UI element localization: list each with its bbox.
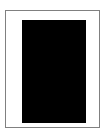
document-thumbnail	[0, 0, 107, 135]
black-content-block[interactable]	[22, 20, 86, 123]
page-border[interactable]	[5, 10, 100, 128]
